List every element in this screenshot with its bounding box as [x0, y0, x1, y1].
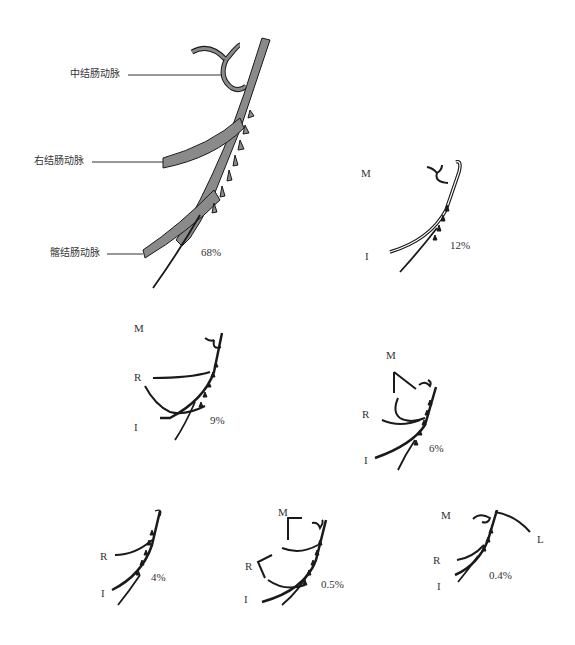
- label-middle-colic-artery: 中结肠动脉: [70, 69, 120, 79]
- label-m: M: [361, 168, 371, 179]
- label-m: M: [278, 507, 288, 518]
- label-i: I: [101, 588, 105, 599]
- percent-main-variant: 68%: [201, 247, 221, 258]
- label-i: I: [437, 581, 441, 592]
- label-r: R: [433, 555, 440, 566]
- percent-variant-9: 9%: [210, 415, 225, 426]
- label-i: I: [134, 422, 138, 433]
- label-m: M: [441, 510, 451, 521]
- variant-0-5-drawing: [258, 518, 326, 605]
- percent-variant-0-4: 0.4%: [489, 570, 512, 581]
- label-r: R: [245, 561, 252, 572]
- label-i: I: [244, 594, 248, 605]
- percent-variant-12: 12%: [450, 240, 470, 251]
- variant-4-drawing: [112, 510, 161, 605]
- percent-variant-6: 6%: [429, 443, 444, 454]
- label-i: I: [365, 251, 369, 262]
- percent-variant-0-5: 0.5%: [321, 579, 344, 590]
- label-m: M: [386, 350, 396, 361]
- variant-12-drawing: [390, 162, 460, 272]
- label-i: I: [364, 455, 368, 466]
- artery-diagram: [0, 0, 575, 645]
- label-r: R: [134, 372, 141, 383]
- label-ileocolic-artery: 髂结肠动脉: [50, 248, 100, 258]
- label-m: M: [134, 323, 144, 334]
- label-right-colic-artery: 右结肠动脉: [34, 156, 84, 166]
- label-l: L: [537, 534, 544, 545]
- percent-variant-4: 4%: [151, 572, 166, 583]
- label-r: R: [100, 551, 107, 562]
- label-r: R: [362, 409, 369, 420]
- variant-6-drawing: [375, 372, 436, 470]
